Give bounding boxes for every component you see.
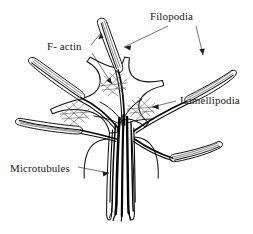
label-f-actin: F- actin: [47, 40, 82, 52]
microtubule-bundle: [94, 99, 153, 221]
label-lamellipodia: Lamellipodia: [180, 94, 240, 106]
filopodium-upper-left: [28, 57, 84, 99]
leader-filopodia-2: [196, 26, 205, 55]
leader-microtubules: [78, 167, 109, 177]
arrowhead: [199, 49, 204, 55]
growth-cone-figure: Filopodia F- actin Lamellipodia Microtub…: [0, 0, 253, 234]
growth-cone-illustration: Filopodia F- actin Lamellipodia Microtub…: [0, 0, 253, 234]
filopodium-lower-right: [170, 142, 223, 162]
label-microtubules: Microtubules: [10, 162, 70, 174]
arrowhead: [124, 45, 131, 50]
leader-filopodia-1: [124, 26, 168, 51]
leader-f-actin-1: [91, 33, 104, 45]
label-filopodia: Filopodia: [150, 10, 193, 22]
growth-cone-body: [51, 57, 164, 178]
